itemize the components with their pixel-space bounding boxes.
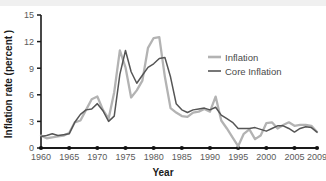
y-tick-label: 3 bbox=[29, 117, 34, 127]
inflation-line-chart: 03691215 1960196519701975198019851990199… bbox=[0, 0, 326, 181]
chart-figure: 03691215 1960196519701975198019851990199… bbox=[0, 0, 326, 181]
x-tick-label: 1980 bbox=[144, 152, 164, 162]
legend-label-inflation: Inflation bbox=[225, 52, 258, 63]
x-axis-tick-labels: 1960196519701975198019851990199520002005… bbox=[31, 152, 326, 162]
x-tick-label: 2009 bbox=[307, 152, 326, 162]
series-line-inflation bbox=[41, 37, 317, 146]
y-axis: 03691215 bbox=[24, 10, 41, 153]
y-tick-label: 12 bbox=[24, 37, 34, 47]
y-tick-label: 9 bbox=[29, 64, 34, 74]
x-tick-label: 2005 bbox=[284, 152, 304, 162]
x-tick-label: 1975 bbox=[115, 152, 135, 162]
y-tick-label: 15 bbox=[24, 10, 34, 20]
y-axis-title: Inflation rate (percent ) bbox=[3, 30, 14, 138]
legend-label-core-inflation: Core Inflation bbox=[225, 66, 282, 77]
x-axis-title: Year bbox=[152, 167, 173, 178]
data-series-layer bbox=[41, 37, 317, 146]
x-axis: 1960196519701975198019851990199520002005… bbox=[31, 146, 326, 162]
x-tick-label: 1960 bbox=[31, 152, 51, 162]
x-tick-label: 1995 bbox=[228, 152, 248, 162]
y-axis-tick-labels: 03691215 bbox=[24, 10, 34, 153]
x-tick-label: 1990 bbox=[200, 152, 220, 162]
y-tick-label: 6 bbox=[29, 90, 34, 100]
x-tick-label: 1985 bbox=[172, 152, 192, 162]
x-tick-label: 2000 bbox=[256, 152, 276, 162]
x-tick-label: 1965 bbox=[59, 152, 79, 162]
x-tick-label: 1970 bbox=[87, 152, 107, 162]
series-line-core-inflation bbox=[41, 50, 317, 136]
chart-legend: InflationCore Inflation bbox=[208, 52, 282, 77]
